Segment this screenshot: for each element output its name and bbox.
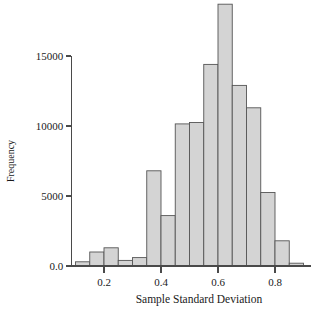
histogram-chart: 0.0500010000150000.20.40.60.8Sample Stan… xyxy=(0,0,333,315)
y-axis-title: Frequency xyxy=(5,140,16,182)
histogram-plot-area: 0.0500010000150000.20.40.60.8Sample Stan… xyxy=(0,0,333,315)
histogram-bar xyxy=(190,123,204,267)
histogram-bar xyxy=(90,252,104,266)
x-axis-tick-label: 0.8 xyxy=(268,276,282,288)
x-axis-title: Sample Standard Deviation xyxy=(136,293,263,306)
histogram-bar xyxy=(247,108,261,266)
histogram-bar xyxy=(76,262,90,266)
x-axis-tick-label: 0.6 xyxy=(211,276,225,288)
y-axis-tick-label: 10000 xyxy=(36,120,64,132)
histogram-bar xyxy=(147,171,161,266)
x-axis-tick-label: 0.2 xyxy=(97,276,111,288)
y-axis-tick-label: 0.0 xyxy=(49,260,63,272)
histogram-bar xyxy=(204,64,218,266)
histogram-bar xyxy=(275,241,289,266)
histogram-bar xyxy=(104,248,118,266)
y-axis-tick-label: 15000 xyxy=(36,50,64,62)
y-axis-tick-label: 5000 xyxy=(41,190,64,202)
histogram-bar xyxy=(261,193,275,267)
histogram-bar xyxy=(133,258,147,266)
histogram-bar xyxy=(118,260,132,266)
x-axis-tick-label: 0.4 xyxy=(154,276,168,288)
histogram-bar xyxy=(218,4,232,266)
histogram-bar xyxy=(161,216,175,266)
histogram-bar xyxy=(175,124,189,266)
histogram-bar xyxy=(232,85,246,266)
